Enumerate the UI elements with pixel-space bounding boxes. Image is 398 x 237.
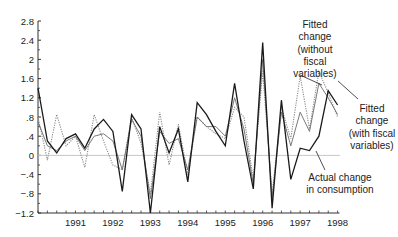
y-tick-label: .4 bbox=[26, 131, 34, 142]
y-tick-label: 2.8 bbox=[21, 16, 34, 27]
annotation-line: fiscal bbox=[304, 56, 327, 67]
y-tick-label: 2.4 bbox=[21, 35, 34, 46]
y-tick-label: .8 bbox=[26, 112, 34, 123]
annotation-actual: Actual changein consumption bbox=[306, 172, 373, 195]
annotation-line: (without bbox=[297, 44, 332, 55]
annotation-line: in consumption bbox=[306, 184, 373, 195]
x-tick-label: 1992 bbox=[102, 217, 123, 228]
x-tick-label: 1993 bbox=[140, 217, 161, 228]
x-tick-label: 1998 bbox=[327, 217, 348, 228]
y-tick-label: −.4 bbox=[21, 169, 34, 180]
annotations: Fittedchange(withoutfiscalvariables)Fitt… bbox=[293, 19, 395, 195]
y-tick-label: −.8 bbox=[21, 188, 34, 199]
annotation-line: Fitted bbox=[302, 19, 327, 30]
x-tick-label: 1995 bbox=[215, 217, 236, 228]
annotation-line: variables) bbox=[350, 140, 393, 151]
x-axis: 19911992199319941995199619971998 bbox=[38, 211, 348, 229]
y-tick-label: 1.6 bbox=[21, 73, 34, 84]
annotation-fitted-with: Fittedchange(with fiscalvariables) bbox=[349, 103, 396, 151]
annotation-line: (with fiscal bbox=[349, 128, 396, 139]
y-tick-label: 1.2 bbox=[21, 92, 34, 103]
y-tick-label: 0 bbox=[29, 150, 34, 161]
annotation-line: variables) bbox=[293, 68, 336, 79]
x-tick-label: 1996 bbox=[252, 217, 273, 228]
leader-actual bbox=[316, 151, 325, 170]
annotation-line: change bbox=[356, 115, 389, 126]
annotation-line: Actual change bbox=[308, 172, 372, 183]
y-axis: 2.82.421.61.2.8.40−.4−.8−1.2 bbox=[15, 16, 41, 219]
leader-fitted-with bbox=[338, 81, 358, 99]
chart-svg: 2.82.421.61.2.8.40−.4−.8−1.2 19911992199… bbox=[0, 0, 398, 237]
y-tick-label: 2 bbox=[29, 54, 34, 65]
annotation-fitted-without: Fittedchange(withoutfiscalvariables) bbox=[293, 19, 336, 79]
y-tick-label: −1.2 bbox=[15, 208, 34, 219]
annotation-line: change bbox=[299, 31, 332, 42]
x-tick-label: 1994 bbox=[177, 217, 198, 228]
x-tick-label: 1997 bbox=[290, 217, 311, 228]
annotation-line: Fitted bbox=[359, 103, 384, 114]
x-tick-label: 1991 bbox=[65, 217, 86, 228]
